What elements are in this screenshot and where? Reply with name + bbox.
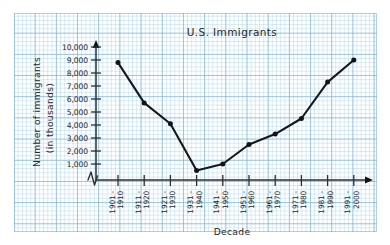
x-axis-tick-label: 1920 [142, 191, 151, 210]
axes [88, 40, 373, 185]
chart-canvas: U.S. Immigrants Number of immigrants (in… [0, 0, 390, 245]
x-axis-tick-label: 1980 [299, 191, 308, 210]
x-axis-tick-label: 1930 [168, 191, 177, 210]
x-axis-tick-label: 2000 [352, 191, 361, 210]
y-axis-tick-label: 2,000 [67, 147, 89, 156]
data-point [247, 142, 252, 147]
data-point [168, 121, 173, 126]
y-axis-tick-label: 5,000 [67, 108, 89, 117]
data-point [273, 132, 278, 137]
y-axis-tick-label: 9,000 [67, 56, 89, 65]
data-point-markers [116, 58, 357, 174]
y-axis-tick-labels: 10,0009,0008,0007,0006,0005,0004,0003,00… [62, 43, 88, 169]
y-axis-title: Number of immigrants (in thousands) [31, 57, 55, 167]
x-axis-tick-label: 1910 [116, 191, 125, 210]
data-point [142, 100, 147, 105]
chart-title: U.S. Immigrants [187, 26, 278, 38]
data-series-line [118, 60, 354, 171]
data-point [220, 162, 225, 167]
x-axis-title: Decade [214, 226, 251, 237]
y-axis-tick-label: 10,000 [62, 43, 88, 52]
x-axis-tick-label: 1960 [247, 191, 256, 210]
chart-screenshot: U.S. Immigrants Number of immigrants (in… [0, 0, 390, 245]
y-axis-title-line1: Number of immigrants [31, 57, 42, 167]
x-axis-arrowhead [365, 177, 373, 184]
data-point [325, 80, 330, 85]
x-axis-tick-label: 1940 [195, 191, 204, 210]
y-axis-tick-label: 3,000 [67, 134, 89, 143]
y-axis-tick-label: 1,000 [67, 160, 89, 169]
y-axis-tick-label: 8,000 [67, 69, 89, 78]
y-axis-tick-label: 4,000 [67, 121, 89, 130]
x-axis-tick-label: 1950 [221, 191, 230, 210]
x-axis-tick-label: 1970 [273, 191, 282, 210]
data-point [299, 116, 304, 121]
data-point [194, 168, 199, 173]
data-point [351, 58, 356, 63]
y-axis-title-line2: (in thousands) [44, 83, 55, 153]
y-axis-tick-label: 6,000 [67, 95, 89, 104]
data-point [116, 60, 121, 65]
x-axis-tick-label: 1990 [326, 191, 335, 210]
y-axis-tick-label: 7,000 [67, 82, 89, 91]
x-axis-tick-labels: 1901 -19101911 -19201921 -19301931 -1940… [108, 190, 361, 213]
